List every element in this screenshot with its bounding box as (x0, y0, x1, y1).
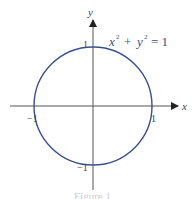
eq-plus: + (124, 34, 131, 49)
circle-equation: x 2 + y 2 = 1 (108, 33, 168, 49)
eq-x-exp: 2 (116, 33, 120, 41)
y-axis-label: y (87, 6, 93, 18)
x-axis-label: x (181, 100, 187, 112)
tick-x-neg: −1 (27, 113, 38, 124)
eq-y: y (135, 34, 143, 49)
eq-rhs: = 1 (151, 34, 168, 49)
figure-caption: Figure 1 (74, 190, 111, 199)
tick-y-pos: 1 (83, 39, 88, 50)
tick-x-pos: 1 (151, 113, 156, 124)
eq-x: x (108, 34, 115, 49)
eq-y-exp: 2 (144, 33, 148, 41)
tick-y-neg: −1 (77, 162, 88, 173)
unit-circle-diagram: x y 1 −1 −1 1 x 2 + y 2 = 1 Figure 1 (0, 0, 194, 199)
